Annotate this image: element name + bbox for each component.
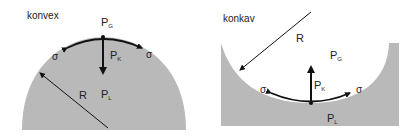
concave-pk-label: PK — [314, 79, 325, 92]
convex-title: konvex — [27, 10, 59, 21]
concave-panel: konkav PG PK PL R σ σ — [221, 12, 399, 126]
capillary-pressure-diagram: konvex PG PK PL R σ σ konkav PG PK PL R … — [0, 0, 410, 140]
concave-sigma-right: σ — [356, 84, 363, 95]
concave-pg-label: PG — [330, 49, 342, 62]
concave-radius-label: R — [296, 32, 304, 44]
concave-title: konkav — [223, 13, 255, 24]
convex-radius-label: R — [79, 89, 87, 101]
convex-sigma-right: σ — [146, 49, 153, 60]
convex-pg-label: PG — [101, 16, 113, 29]
concave-sigma-left: σ — [260, 84, 267, 95]
convex-panel: konvex PG PK PL R σ σ — [22, 10, 186, 130]
convex-sigma-left: σ — [52, 51, 59, 62]
